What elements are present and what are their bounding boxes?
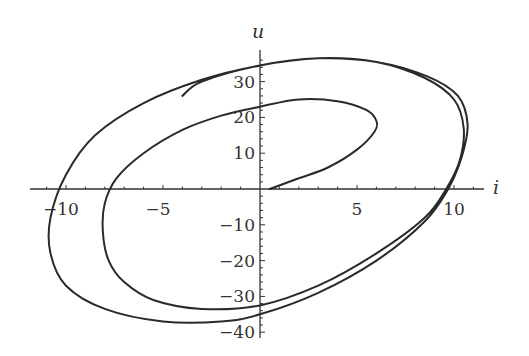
x-axis-label: i — [493, 176, 499, 198]
x-tick-label: −10 — [43, 199, 79, 219]
axes: −10−5510 −40−30−20−10102030 i u — [30, 20, 499, 342]
y-tick-label: −10 — [219, 215, 255, 235]
x-tick-label: 10 — [443, 199, 465, 219]
x-tick-label: −5 — [145, 199, 170, 219]
y-tick-label: −30 — [219, 286, 255, 306]
trajectory-curve — [49, 58, 468, 323]
y-ticks — [260, 60, 265, 332]
y-tick-label: 10 — [233, 143, 255, 163]
x-tick-label: 5 — [352, 199, 363, 219]
phase-plot: −10−5510 −40−30−20−10102030 i u — [0, 0, 529, 356]
y-tick-label: −20 — [219, 251, 255, 271]
y-tick-label: 30 — [233, 72, 255, 92]
y-tick-label: −40 — [219, 322, 255, 342]
y-axis-label: u — [252, 20, 264, 42]
